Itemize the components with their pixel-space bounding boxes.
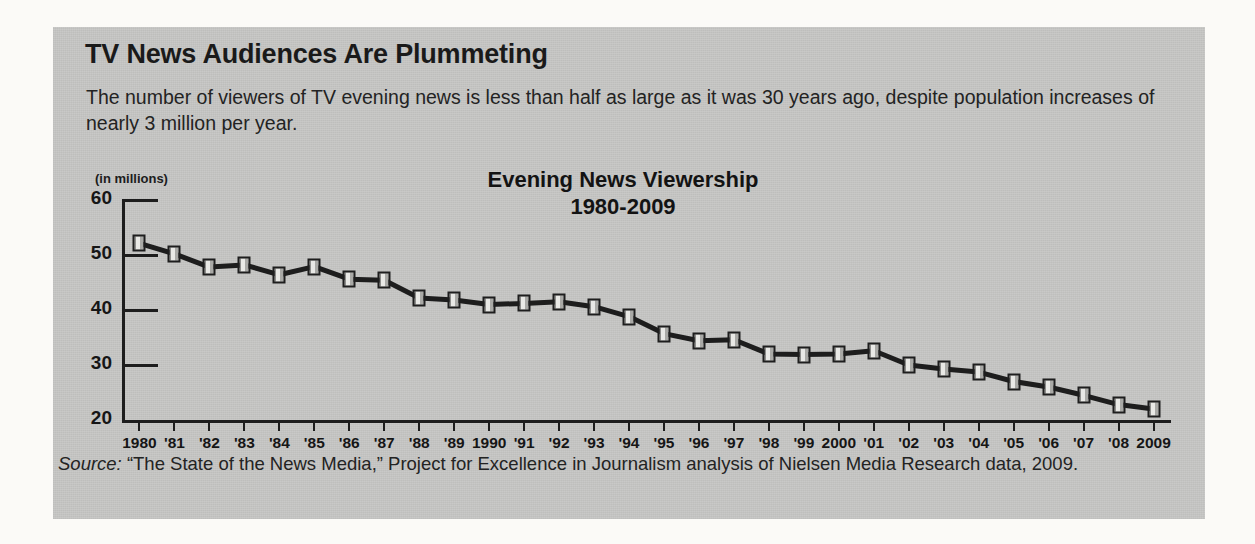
data-point-marker	[448, 292, 461, 309]
data-point-marker	[518, 295, 531, 312]
data-point-marker	[867, 342, 880, 359]
data-point-marker	[727, 331, 740, 348]
figure-panel: TV News Audiences Are Plummeting The num…	[53, 27, 1205, 519]
data-point-marker	[1042, 379, 1055, 396]
plot-area: 60504030201980'81'82'83'84'85'86'87'88'8…	[53, 27, 1205, 519]
data-point-marker	[1147, 401, 1160, 418]
data-point-marker	[623, 308, 636, 325]
data-point-marker	[378, 272, 391, 289]
data-point-marker	[168, 245, 181, 262]
data-point-marker	[343, 271, 356, 288]
data-point-marker	[413, 289, 426, 306]
data-point-marker	[483, 296, 496, 313]
data-point-marker	[273, 266, 286, 283]
data-point-marker	[762, 346, 775, 363]
data-point-marker	[657, 325, 670, 342]
data-point-marker	[553, 293, 566, 310]
chart: (in millions) Evening News Viewership 19…	[53, 27, 1205, 519]
data-point-marker	[902, 357, 915, 374]
data-point-marker	[832, 346, 845, 363]
data-point-marker	[588, 298, 601, 315]
data-point-marker	[1077, 387, 1090, 404]
data-point-marker	[308, 258, 321, 275]
figure-page: TV News Audiences Are Plummeting The num…	[0, 0, 1255, 544]
data-point-marker	[1112, 396, 1125, 413]
data-point-marker	[692, 332, 705, 349]
series-line	[53, 27, 1205, 519]
data-point-marker	[937, 360, 950, 377]
data-point-marker	[972, 364, 985, 381]
data-point-marker	[133, 235, 146, 252]
data-point-marker	[797, 346, 810, 363]
data-point-marker	[1007, 373, 1020, 390]
data-point-marker	[238, 256, 251, 273]
data-point-marker	[203, 259, 216, 276]
